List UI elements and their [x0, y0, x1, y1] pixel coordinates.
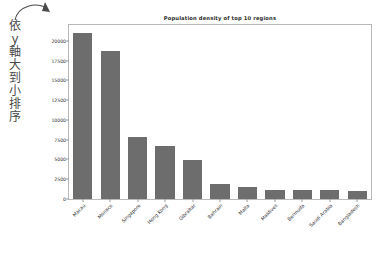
x-axis-tick-mark [220, 199, 221, 202]
x-axis-tick-label: Bangladesh [329, 203, 361, 235]
x-axis-tick-mark [110, 199, 111, 202]
x-axis: MacauMonacoSingaporeHong KongGibraltarBa… [0, 0, 378, 259]
x-axis-tick-label: Hong Kong [137, 203, 169, 235]
x-axis-tick-mark [82, 199, 83, 202]
x-axis-tick-mark [137, 199, 138, 202]
x-axis-tick-mark [302, 199, 303, 202]
x-axis-tick-mark [165, 199, 166, 202]
x-axis-tick-label: Monaco [82, 203, 114, 235]
screenshot-root: 依 y 軸 大 到 小 排 序 Population density of to… [0, 0, 378, 259]
x-axis-tick-mark [247, 199, 248, 202]
x-axis-tick-mark [357, 199, 358, 202]
x-axis-tick-mark [329, 199, 330, 202]
x-axis-tick-mark [274, 199, 275, 202]
